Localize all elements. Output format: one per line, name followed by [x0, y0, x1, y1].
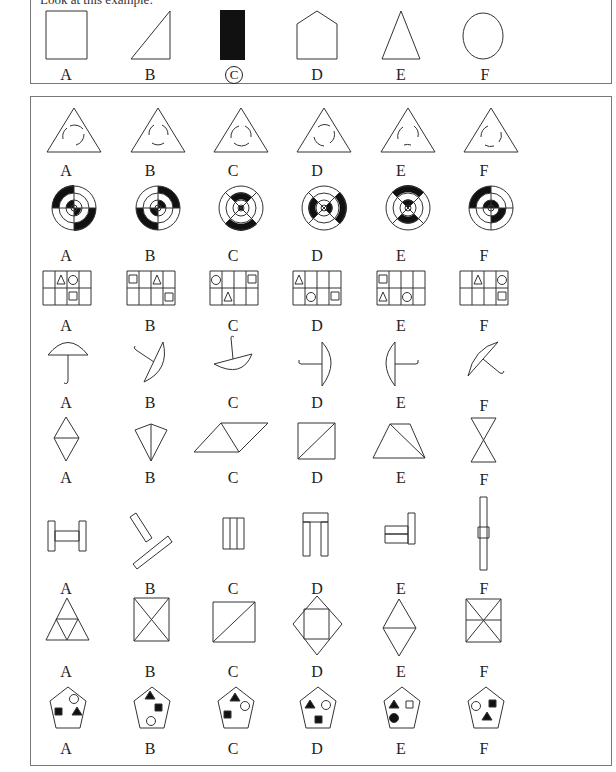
q3-label-b[interactable]: B [130, 318, 170, 334]
q5-option-e-icon[interactable] [372, 423, 428, 459]
q1-label-a[interactable]: A [46, 163, 86, 179]
q7-label-d[interactable]: D [297, 664, 337, 680]
q6-label-c[interactable]: C [213, 581, 253, 597]
q1-label-d[interactable]: D [297, 163, 337, 179]
q2-option-a-icon[interactable] [50, 183, 98, 233]
q6-option-d-icon[interactable] [302, 512, 330, 558]
q1-option-c-icon[interactable] [213, 107, 269, 153]
q4-option-a-umbrella-icon[interactable] [46, 340, 90, 386]
q1-option-b-icon[interactable] [130, 107, 186, 153]
q6-label-a[interactable]: A [46, 581, 86, 597]
q6-option-b-icon[interactable] [128, 512, 176, 572]
example-label-f[interactable]: F [465, 67, 505, 83]
q1-option-a-icon[interactable] [46, 107, 102, 153]
q2-label-b[interactable]: B [130, 248, 170, 264]
q8-option-a-icon[interactable] [48, 686, 88, 730]
q3-label-f[interactable]: F [464, 318, 504, 334]
q7-label-b[interactable]: B [130, 664, 170, 680]
q1-label-f[interactable]: F [464, 163, 504, 179]
q2-label-d[interactable]: D [297, 248, 337, 264]
q2-option-c-icon[interactable] [217, 183, 265, 233]
example-label-d[interactable]: D [297, 67, 337, 83]
q6-option-e-icon[interactable] [384, 512, 418, 548]
q4-option-c-umbrella-icon[interactable] [212, 335, 258, 381]
q2-label-f[interactable]: F [464, 248, 504, 264]
q2-option-d-icon[interactable] [300, 183, 348, 233]
q7-option-c-icon[interactable] [212, 601, 256, 643]
q6-option-f-icon[interactable] [477, 496, 491, 574]
q8-option-c-icon[interactable] [216, 686, 256, 730]
q1-label-e[interactable]: E [381, 163, 421, 179]
q2-label-e[interactable]: E [381, 248, 421, 264]
q7-label-e[interactable]: E [381, 664, 421, 680]
q5-option-b-icon[interactable] [134, 423, 170, 461]
q8-option-d-icon[interactable] [298, 686, 338, 730]
q5-option-d-icon[interactable] [297, 422, 337, 460]
q8-label-e[interactable]: E [381, 741, 421, 757]
q4-option-e-umbrella-icon[interactable] [380, 340, 424, 386]
q4-option-f-umbrella-icon[interactable] [464, 340, 508, 386]
q3-option-b-icon[interactable] [126, 270, 176, 306]
q7-label-a[interactable]: A [46, 664, 86, 680]
q7-option-a-icon[interactable] [45, 597, 91, 643]
q3-label-e[interactable]: E [381, 318, 421, 334]
q6-label-f[interactable]: F [464, 581, 504, 597]
q8-label-b[interactable]: B [130, 741, 170, 757]
q2-label-a[interactable]: A [46, 248, 86, 264]
q8-option-f-icon[interactable] [466, 686, 506, 730]
q8-label-d[interactable]: D [297, 741, 337, 757]
q3-option-f-icon[interactable] [459, 270, 509, 306]
q3-option-e-icon[interactable] [376, 270, 426, 306]
q1-label-c[interactable]: C [213, 163, 253, 179]
example-label-b[interactable]: B [130, 67, 170, 83]
q1-option-f-icon[interactable] [463, 107, 519, 153]
q5-option-c-icon[interactable] [193, 422, 269, 454]
q2-option-e-icon[interactable] [384, 183, 432, 233]
q7-option-f-icon[interactable] [465, 598, 503, 644]
q5-label-c[interactable]: C [213, 470, 253, 486]
q4-option-b-umbrella-icon[interactable] [130, 340, 174, 386]
example-label-a[interactable]: A [46, 67, 86, 83]
q4-label-f[interactable]: F [464, 398, 504, 414]
q7-option-e-icon[interactable] [382, 598, 418, 658]
q5-option-f-icon[interactable] [470, 417, 498, 467]
q4-label-b[interactable]: B [130, 395, 170, 411]
q4-option-d-umbrella-icon[interactable] [298, 340, 342, 386]
example-label-e[interactable]: E [381, 67, 421, 83]
q5-label-e[interactable]: E [381, 470, 421, 486]
q7-option-d-icon[interactable] [292, 595, 344, 657]
q2-option-f-icon[interactable] [467, 183, 515, 233]
q8-option-b-icon[interactable] [132, 686, 172, 730]
q3-option-d-icon[interactable] [292, 270, 342, 306]
q6-label-b[interactable]: B [130, 581, 170, 597]
q1-option-e-icon[interactable] [380, 107, 436, 153]
q8-option-e-icon[interactable] [382, 686, 422, 730]
q5-label-a[interactable]: A [46, 470, 86, 486]
q4-label-e[interactable]: E [381, 395, 421, 411]
q3-option-a-icon[interactable] [42, 270, 92, 306]
q3-label-c[interactable]: C [213, 318, 253, 334]
q7-label-c[interactable]: C [213, 664, 253, 680]
q4-label-c[interactable]: C [213, 395, 253, 411]
q1-option-d-icon[interactable] [296, 107, 352, 153]
q3-label-a[interactable]: A [46, 318, 86, 334]
q6-label-e[interactable]: E [381, 581, 421, 597]
q8-label-f[interactable]: F [464, 741, 504, 757]
q6-option-a-icon[interactable] [47, 515, 89, 553]
q6-option-c-icon[interactable] [222, 517, 246, 551]
q8-label-a[interactable]: A [46, 741, 86, 757]
q5-label-b[interactable]: B [130, 470, 170, 486]
q1-label-b[interactable]: B [130, 163, 170, 179]
q7-option-b-icon[interactable] [133, 597, 171, 643]
q5-label-d[interactable]: D [297, 470, 337, 486]
q5-label-f[interactable]: F [464, 472, 504, 488]
q4-label-a[interactable]: A [46, 395, 86, 411]
q8-label-c[interactable]: C [213, 741, 253, 757]
q2-label-c[interactable]: C [213, 248, 253, 264]
q7-label-f[interactable]: F [464, 664, 504, 680]
q2-option-b-icon[interactable] [134, 183, 182, 233]
q5-option-a-icon[interactable] [53, 416, 81, 466]
q3-option-c-icon[interactable] [209, 270, 259, 306]
q3-label-d[interactable]: D [297, 318, 337, 334]
example-label-c-selected[interactable]: C [214, 66, 254, 84]
